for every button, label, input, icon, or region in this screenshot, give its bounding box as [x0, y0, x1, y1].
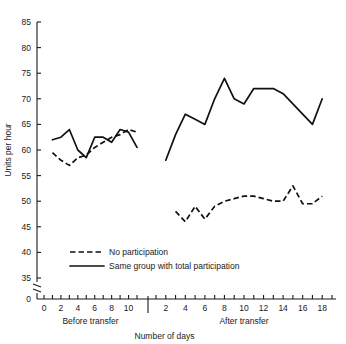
x-tick-label: 14 — [278, 303, 288, 313]
x-tick-label: 2 — [163, 303, 168, 313]
x-tick-label: 6 — [203, 303, 208, 313]
legend-label: Same group with total participation — [109, 261, 240, 271]
y-tick-label: 65 — [22, 119, 32, 129]
x-tick-label: 8 — [109, 303, 114, 313]
chart-container: 35404550556065707580850Units per hour024… — [0, 0, 346, 344]
x-tick-label: 8 — [222, 303, 227, 313]
y-axis-break-icon — [33, 278, 41, 299]
x-tick-label: 10 — [124, 303, 134, 313]
x-panel-label: After transfer — [219, 316, 268, 326]
y-tick-label: 80 — [22, 43, 32, 53]
x-tick-label: 16 — [298, 303, 308, 313]
y-tick-label: 70 — [22, 94, 32, 104]
x-tick-label: 10 — [239, 303, 249, 313]
x-axis-title: Number of days — [135, 331, 195, 341]
y-tick-label: 50 — [22, 196, 32, 206]
x-tick-label: 4 — [75, 303, 80, 313]
y-tick-label: 75 — [22, 68, 32, 78]
series-line-total-participation — [52, 130, 137, 158]
x-tick-label: 4 — [183, 303, 188, 313]
x-tick-label: 2 — [59, 303, 64, 313]
y-tick-label: 45 — [22, 222, 32, 232]
y-tick-label: 60 — [22, 145, 32, 155]
y-tick-label: 35 — [22, 273, 32, 283]
x-tick-label: 12 — [259, 303, 269, 313]
x-tick-label: 18 — [317, 303, 327, 313]
x-tick-label: 0 — [42, 303, 47, 313]
y-axis-title: Units per hour — [3, 123, 13, 177]
y-origin-label: 0 — [26, 294, 31, 304]
y-tick-label: 40 — [22, 247, 32, 257]
x-tick-label: 6 — [92, 303, 97, 313]
x-panel-label: Before transfer — [62, 316, 118, 326]
legend-label: No participation — [109, 247, 168, 257]
y-tick-label: 85 — [22, 17, 32, 27]
series-line-no-participation — [52, 130, 137, 166]
series-line-total-participation — [166, 78, 322, 160]
line-chart: 35404550556065707580850Units per hour024… — [0, 0, 346, 344]
y-tick-label: 55 — [22, 171, 32, 181]
series-line-no-participation — [176, 186, 323, 222]
